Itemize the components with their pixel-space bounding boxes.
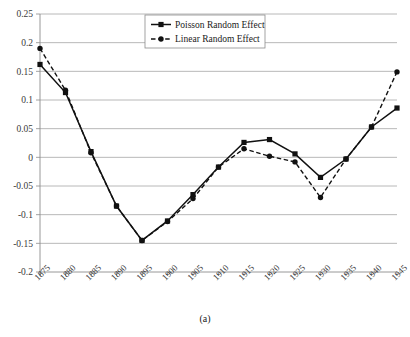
data-point-circle [216,164,221,169]
x-tick-label: 1930 [313,262,333,282]
y-tick-label: -0.05 [13,181,33,191]
y-tick-label: -0.1 [18,210,33,220]
x-tick-label: 1885 [83,262,103,282]
series-line-circle [40,48,397,240]
data-point-circle [63,88,68,93]
x-tick-label: 1880 [58,262,78,282]
data-point-circle [114,203,119,208]
data-point-circle [88,150,93,155]
y-tick-label: 0.25 [16,9,33,19]
y-tick-label: 0.05 [16,124,33,134]
y-tick-label: 0.2 [21,38,33,48]
data-point-square [318,175,323,180]
data-point-circle [139,238,144,243]
x-tick-label: 1935 [338,262,358,282]
data-point-circle [343,156,348,161]
y-tick-label: 0.15 [16,67,33,77]
y-tick-label: -0.2 [18,267,33,277]
data-point-circle [394,69,399,74]
figure-caption: (a) [199,313,210,325]
series-2-markers [37,46,399,243]
x-tick-label: 1910 [211,262,231,282]
x-tick-label: 1875 [32,262,52,282]
data-point-square [394,105,399,110]
data-point-circle [165,219,170,224]
y-axis-gridlines [40,14,397,272]
x-tick-label: 1905 [185,262,205,282]
data-point-square [37,62,42,67]
x-tick-label: 1940 [364,262,384,282]
legend-label-2: Linear Random Effect [175,34,260,44]
x-tick-label: 1925 [287,262,307,282]
x-tick-label: 1920 [262,262,282,282]
x-tick-label: 1945 [389,262,409,282]
x-axis-tick-labels: 1875188018851890189519001905191019151920… [32,262,409,282]
line-chart: 0.250.20.150.10.050-0.05-0.1-0.15-0.2187… [0,0,410,337]
data-point-circle [37,46,42,51]
data-point-square [241,140,246,145]
data-point-square [267,137,272,142]
y-axis-tick-labels: 0.250.20.150.10.050-0.05-0.1-0.15-0.2 [13,9,40,277]
x-tick-label: 1900 [160,262,180,282]
data-point-circle [292,159,297,164]
x-tick-label: 1895 [134,262,154,282]
legend-marker-circle [158,36,163,41]
y-tick-label: 0 [28,153,33,163]
x-tick-label: 1890 [109,262,129,282]
data-point-circle [267,153,272,158]
data-point-circle [241,146,246,151]
figure-panel-a: 0.250.20.150.10.050-0.05-0.1-0.15-0.2187… [0,0,410,337]
data-point-square [292,151,297,156]
y-tick-label: 0.1 [21,95,33,105]
x-tick-label: 1915 [236,262,256,282]
y-tick-label: -0.15 [13,239,33,249]
data-point-circle [190,196,195,201]
data-point-circle [318,195,323,200]
legend-label-1: Poisson Random Effect [175,20,265,30]
data-point-circle [369,124,374,129]
legend: Poisson Random EffectLinear Random Effec… [145,15,265,48]
series-2-line [40,48,397,240]
caption-label: (a) [199,313,210,325]
legend-marker-square [158,22,163,27]
